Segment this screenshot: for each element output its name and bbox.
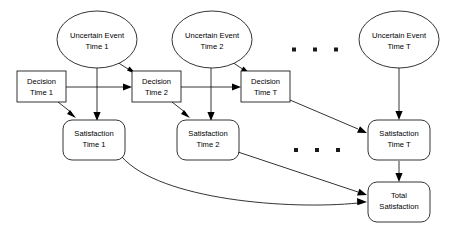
edge-decision1-to-satisfaction1 [58, 102, 76, 118]
edge-decision1-to-decision2 [66, 83, 132, 90]
influence-diagram: Uncertain Event Time 1 Uncertain Event T… [0, 0, 457, 236]
node-satisfaction-2-line1: Satisfaction [188, 129, 227, 138]
node-decision-2-line1: Decision [142, 77, 171, 86]
node-decision-2-line2: Time 2 [145, 88, 168, 97]
edge-satisfaction1-to-total [122, 157, 367, 205]
node-uncertain-event-1-line1: Uncertain Event [70, 31, 125, 40]
edge-satisfaction2-to-total [238, 152, 367, 196]
ellipsis-top-row [292, 48, 338, 52]
node-satisfaction-1-line1: Satisfaction [74, 129, 113, 138]
node-total-satisfaction-line2: Satisfaction [379, 202, 418, 211]
node-satisfaction-2-line2: Time 2 [197, 140, 220, 149]
node-uncertain-event-1[interactable]: Uncertain Event Time 1 [57, 11, 137, 68]
node-satisfaction-t-line2: Time T [387, 140, 411, 149]
edge-decision2-to-satisfaction2 [172, 102, 190, 118]
node-satisfaction-1-line2: Time 1 [83, 140, 106, 149]
node-uncertain-event-t-line1: Uncertain Event [372, 31, 427, 40]
node-total-satisfaction-line1: Total [391, 191, 407, 200]
edge-event2-to-satisfaction2 [207, 68, 214, 121]
node-total-satisfaction[interactable]: Total Satisfaction [368, 182, 430, 222]
node-satisfaction-1[interactable]: Satisfaction Time 1 [63, 120, 125, 160]
edge-eventt-to-satisfactiont [395, 68, 402, 120]
node-satisfaction-t-line1: Satisfaction [379, 129, 418, 138]
node-uncertain-event-1-line2: Time 1 [86, 42, 109, 51]
node-satisfaction-2[interactable]: Satisfaction Time 2 [177, 120, 239, 160]
node-uncertain-event-2-line2: Time 2 [201, 42, 224, 51]
node-uncertain-event-t[interactable]: Uncertain Event Time T [359, 11, 439, 68]
node-decision-t[interactable]: Decision Time T [241, 71, 290, 102]
node-satisfaction-t[interactable]: Satisfaction Time T [368, 120, 430, 160]
node-decision-t-line1: Decision [251, 77, 280, 86]
node-uncertain-event-t-line2: Time T [387, 42, 411, 51]
edge-decisiont-to-satisfactiont [290, 100, 367, 133]
node-uncertain-event-2[interactable]: Uncertain Event Time 2 [172, 11, 252, 68]
node-decision-1-line2: Time 1 [30, 88, 53, 97]
node-decision-2[interactable]: Decision Time 2 [132, 71, 181, 102]
node-decision-1-line1: Decision [27, 77, 56, 86]
diagram-canvas: Uncertain Event Time 1 Uncertain Event T… [0, 0, 457, 236]
edge-satisfactiont-to-total [395, 161, 402, 182]
ellipsis-middle-row [294, 148, 340, 152]
node-decision-1[interactable]: Decision Time 1 [17, 71, 66, 102]
node-uncertain-event-2-line1: Uncertain Event [185, 31, 240, 40]
node-decision-t-line2: Time T [254, 88, 278, 97]
edge-event1-to-satisfaction1 [93, 68, 100, 121]
